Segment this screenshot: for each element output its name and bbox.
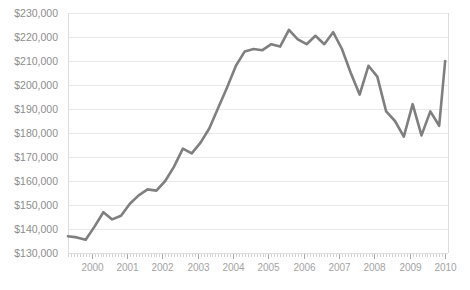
x-axis-tick-label: 2006: [293, 262, 316, 273]
x-axis-tick-label: 2004: [222, 262, 245, 273]
x-axis-tick-label: 2010: [434, 262, 457, 273]
chart-canvas: $130,000$140,000$150,000$160,000$170,000…: [0, 0, 470, 290]
y-axis-tick-label: $170,000: [14, 151, 58, 163]
x-axis-tick-label: 2001: [116, 262, 139, 273]
x-axis-tick-label: 2008: [363, 262, 386, 273]
x-axis-tick-label: 2007: [328, 262, 351, 273]
x-axis-tick-label: 2005: [257, 262, 280, 273]
y-axis-tick-label: $190,000: [14, 103, 58, 115]
y-axis-tick-label: $160,000: [14, 175, 58, 187]
line-chart: $130,000$140,000$150,000$160,000$170,000…: [0, 0, 470, 290]
x-axis-tick-label: 2000: [81, 262, 104, 273]
y-axis-tick-label: $130,000: [14, 247, 58, 259]
y-axis-tick-label: $140,000: [14, 223, 58, 235]
y-axis-tick-label: $180,000: [14, 127, 58, 139]
y-axis-tick-label: $200,000: [14, 79, 58, 91]
y-axis-tick-label: $210,000: [14, 55, 58, 67]
y-axis-tick-label: $230,000: [14, 7, 58, 19]
x-axis-labels-group: 2000200120022003200420052006200720082009…: [81, 262, 457, 273]
x-axis-tick-label: 2003: [187, 262, 210, 273]
y-axis-labels-group: $130,000$140,000$150,000$160,000$170,000…: [14, 7, 58, 259]
y-axis-tick-label: $150,000: [14, 199, 58, 211]
x-axis-tick-label: 2002: [151, 262, 174, 273]
y-axis-tick-label: $220,000: [14, 31, 58, 43]
x-axis-tick-label: 2009: [399, 262, 422, 273]
